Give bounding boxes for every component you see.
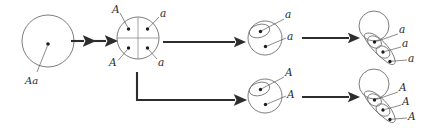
stage-3-bottom-budding-cell-A: A A [248, 66, 295, 113]
nucleus-dot [127, 27, 130, 30]
label-a-chain-3: a [408, 52, 414, 64]
nucleus-dot-bud [259, 88, 262, 91]
branch-elbow-to-stage3-bottom [137, 72, 235, 100]
leader-line-a-mother [267, 38, 286, 46]
nucleus-dot-chain-3 [388, 60, 391, 63]
label-a-top-right: a [160, 7, 166, 19]
cell-membrane [248, 21, 282, 55]
bud-chain-outline [364, 91, 395, 123]
label-a-chain-2: a [402, 37, 408, 49]
label-a-bottom-right: a [158, 56, 164, 68]
arrow-group-2 [137, 42, 235, 100]
leader-line-a-bottom-right [148, 49, 157, 59]
leader-line-a-chain-3 [392, 60, 407, 61]
cell-membrane [248, 79, 282, 113]
nucleus-dot [127, 46, 130, 49]
label-a-chain-1: a [399, 23, 405, 35]
label-Aa: Aa [24, 75, 38, 86]
label-a-mother: a [287, 30, 293, 42]
cell-membrane [22, 15, 74, 67]
leader-line-A-mother [267, 96, 286, 104]
nucleus-dot-bud [259, 30, 262, 33]
nucleus-dot-mother [264, 45, 267, 48]
arrow-group-3 [302, 38, 349, 97]
bud-chain-outline [364, 33, 395, 65]
label-A-top-left: A [111, 3, 120, 15]
leader-line-a-chain-2 [385, 47, 401, 52]
nucleus-dot-chain-2 [381, 50, 384, 53]
label-a-bud: a [285, 8, 291, 20]
nucleus-dot-chain-3 [388, 118, 391, 121]
nucleus-dot-mother [264, 103, 267, 106]
leader-line-A-chain-2 [385, 105, 401, 110]
diagram-canvas: Aa A a A a [0, 0, 429, 134]
stage-2-four-nucleate-cell: A a A a [108, 3, 166, 68]
label-A-chain-2: A [401, 95, 410, 107]
stage-4-top-bud-chain-a: a a a [359, 11, 414, 65]
stage-1-parent-cell: Aa [22, 15, 74, 86]
nucleus-dot [46, 42, 50, 46]
label-A-mother: A [286, 88, 295, 100]
mother-cell-membrane [359, 11, 389, 41]
mother-cell-membrane [359, 69, 389, 99]
leader-line-a-top-right [149, 17, 159, 28]
nucleus-dot-chain-2 [381, 108, 384, 111]
leader-line-Aa [37, 46, 47, 72]
label-A-bud: A [284, 66, 293, 78]
nucleus-dot [146, 46, 149, 49]
stage-3-top-budding-cell-a: a a [248, 8, 294, 55]
stage-4-bottom-bud-chain-A: A A A [359, 69, 416, 123]
nucleus-dot-chain-1 [373, 98, 376, 101]
label-A-chain-3: A [407, 110, 416, 122]
leader-line-A-chain-3 [392, 118, 407, 119]
nucleus-dot-chain-1 [373, 40, 376, 43]
label-A-chain-1: A [398, 81, 407, 93]
label-A-bottom-left: A [108, 56, 117, 68]
